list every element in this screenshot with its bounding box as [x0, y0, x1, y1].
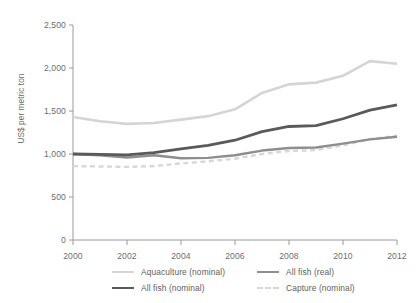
chart-legend: Aquaculture (nominal)All fish (real)All … — [112, 264, 402, 296]
legend-label: Capture (nominal) — [286, 283, 355, 293]
legend-item[interactable]: Aquaculture (nominal) — [112, 264, 247, 280]
legend-swatch-all-fish-real — [257, 271, 279, 273]
legend-swatch-aquaculture-nominal — [112, 271, 134, 273]
chart-figure: US$ per metric ton 05001,0001,5002,0002,… — [0, 0, 416, 303]
chart-axes — [73, 25, 397, 240]
legend-item[interactable]: Capture (nominal) — [257, 280, 392, 296]
legend-label: All fish (real) — [286, 267, 334, 277]
legend-swatch-capture-nominal — [257, 287, 279, 289]
series-line — [73, 105, 397, 155]
legend-label: Aquaculture (nominal) — [141, 267, 225, 277]
legend-label: All fish (nominal) — [141, 283, 205, 293]
series-line — [73, 61, 397, 124]
x-axis-ticks — [73, 240, 397, 245]
legend-swatch-all-fish-nominal — [112, 287, 134, 289]
y-axis-ticks — [69, 25, 73, 240]
legend-item[interactable]: All fish (nominal) — [112, 280, 247, 296]
legend-item[interactable]: All fish (real) — [257, 264, 392, 280]
plot-area — [0, 0, 416, 303]
